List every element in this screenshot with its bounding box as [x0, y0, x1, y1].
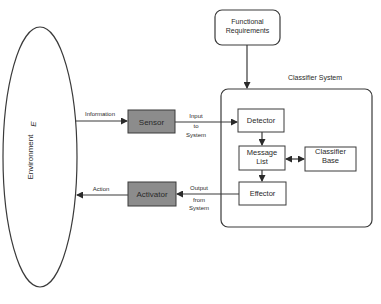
message-list-node: Message List — [239, 146, 285, 170]
classifier-system-title: Classifier System — [288, 74, 342, 82]
effector-node: Effector — [239, 182, 286, 205]
message-list-line2: List — [256, 157, 269, 166]
sensor-node: Sensor — [128, 110, 175, 133]
activator-label: Activator — [136, 190, 167, 199]
output-label-line1: Output — [190, 185, 208, 191]
sensor-label: Sensor — [139, 118, 165, 127]
information-label: Information — [85, 111, 115, 117]
classifier-base-line2: Base — [322, 156, 339, 165]
functional-requirements-node: Functional Requirements — [215, 10, 280, 45]
environment-label: Environment — [26, 134, 35, 180]
environment-node: Environment E — [3, 27, 77, 287]
classifier-base-line1: Classifier — [315, 147, 346, 156]
functional-requirements-line2: Requirements — [226, 27, 270, 35]
input-label-line3: System — [186, 132, 206, 138]
message-list-line1: Message — [247, 148, 277, 157]
detector-node: Detector — [238, 109, 284, 132]
environment-symbol: E — [29, 121, 38, 127]
effector-label: Effector — [250, 189, 276, 198]
classifier-base-node: Classifier Base — [305, 147, 356, 171]
classifier-system-diagram: Environment E Functional Requirements Cl… — [0, 0, 381, 304]
functional-requirements-line1: Functional — [231, 18, 264, 25]
input-label-line1: Input — [189, 113, 203, 119]
action-label: Action — [93, 186, 110, 192]
output-label-line2: from — [193, 197, 205, 203]
detector-label: Detector — [247, 116, 276, 125]
input-label-line2: to — [193, 123, 199, 129]
output-label-line3: System — [189, 205, 209, 211]
activator-node: Activator — [128, 182, 176, 206]
